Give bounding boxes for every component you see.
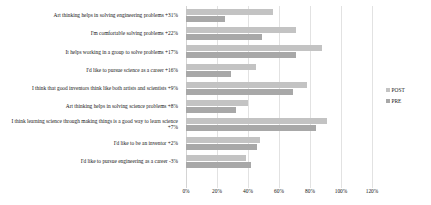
x-tick-label: 20%	[212, 188, 222, 194]
bar-post	[186, 9, 273, 15]
category-label: I think that good inventors think like b…	[0, 85, 178, 91]
bar-pre	[186, 107, 236, 113]
category-axis: Art thinking helps in solving engineerin…	[0, 6, 182, 181]
legend-item-post: POST	[386, 87, 430, 93]
x-tick-label: 60%	[274, 188, 284, 194]
legend-swatch-icon	[386, 88, 390, 92]
bar-row	[186, 97, 372, 115]
bar-post	[186, 27, 296, 33]
legend-item-pre: PRE	[386, 98, 430, 104]
category-label: I'd like to pursue engineering as a care…	[0, 158, 178, 164]
category-label: I think learning science through making …	[0, 118, 178, 131]
x-tick-label: 40%	[243, 188, 253, 194]
bar-row	[186, 115, 372, 133]
bar-post	[186, 100, 248, 106]
bar-chart: Art thinking helps in solving engineerin…	[0, 0, 431, 205]
bar-post	[186, 45, 322, 51]
bar-post	[186, 155, 246, 161]
category-label: Art thinking helps in solving science pr…	[0, 103, 178, 109]
x-tick-label: 80%	[305, 188, 315, 194]
category-label: I'd like to be an inventor +2%	[0, 140, 178, 146]
x-tick-label: 100%	[335, 188, 348, 194]
bar-post	[186, 118, 327, 124]
gridline	[372, 6, 373, 188]
bar-pre	[186, 162, 251, 168]
x-axis: 0%20%40%60%80%100%120%	[186, 188, 372, 202]
bar-post	[186, 64, 256, 70]
bar-pre	[186, 16, 225, 22]
legend: POST PRE	[386, 87, 430, 109]
bar-rows	[186, 6, 372, 170]
bar-pre	[186, 144, 257, 150]
bar-row	[186, 42, 372, 60]
legend-swatch-icon	[386, 99, 390, 103]
category-label: It helps working in a group to solve pro…	[0, 49, 178, 55]
category-label: I'm comfortable solving problems +22%	[0, 30, 178, 36]
x-tick-label: 120%	[366, 188, 379, 194]
x-tick-label: 0%	[182, 188, 189, 194]
bar-post	[186, 82, 307, 88]
bar-row	[186, 24, 372, 42]
bar-row	[186, 152, 372, 170]
bar-pre	[186, 34, 262, 40]
bar-row	[186, 6, 372, 24]
category-label: Art thinking helps in solving engineerin…	[0, 12, 178, 18]
bar-post	[186, 137, 260, 143]
legend-label: POST	[392, 87, 405, 93]
bar-row	[186, 79, 372, 97]
bar-pre	[186, 125, 316, 131]
bar-pre	[186, 71, 231, 77]
category-label: I'd like to pursue science as a career +…	[0, 67, 178, 73]
plot-area	[186, 6, 372, 188]
legend-label: PRE	[392, 98, 402, 104]
bar-row	[186, 134, 372, 152]
bar-pre	[186, 52, 296, 58]
bar-pre	[186, 89, 293, 95]
bar-row	[186, 61, 372, 79]
